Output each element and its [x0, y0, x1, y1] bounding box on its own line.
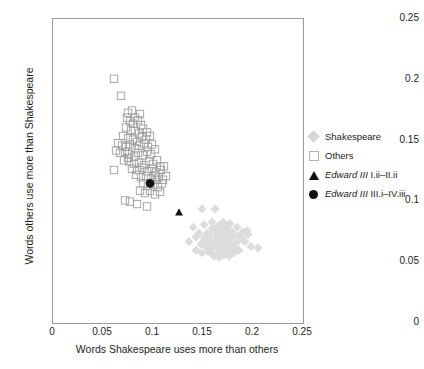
square-marker-icon [306, 148, 322, 164]
diamond-marker-icon [306, 129, 322, 145]
legend-title-italic-a: Edward III [325, 169, 368, 180]
legend-item-edward3-b[interactable]: Edward III III.i–IV.iii [306, 185, 424, 202]
xtick-label-0.2: 0.2 [245, 327, 259, 337]
legend-item-shakespeare[interactable]: Shakespeare [306, 128, 424, 145]
xtick-label-0.05: 0.05 [92, 327, 111, 337]
legend-label-shakespeare: Shakespeare [325, 131, 381, 142]
ytick-label-0.05: 0.05 [380, 256, 424, 266]
scatter-plot-figure: 0 0.05 0.1 0.15 0.2 0.25 0 0.05 0.1 0.15… [0, 0, 424, 369]
xtick-label-0.15: 0.15 [192, 327, 211, 337]
xtick-label-0.1: 0.1 [145, 327, 159, 337]
legend-scenes-a: I.ii–II.ii [368, 169, 398, 180]
ytick-label-0.25: 0.25 [380, 13, 424, 23]
xtick-label-0: 0 [49, 327, 55, 337]
y-axis-title: Words others use more than Shakespeare [23, 16, 35, 316]
ytick-label-0: 0 [380, 317, 424, 327]
xtick-label-0.25: 0.25 [292, 327, 311, 337]
x-axis-title: Words Shakespeare uses more than others [52, 343, 302, 355]
legend-item-edward3-a[interactable]: Edward III I.ii–II.ii [306, 166, 424, 183]
triangle-marker-icon [306, 167, 322, 183]
chart-legend: Shakespeare Others Edward III I.ii–II.ii… [306, 128, 424, 204]
legend-item-others[interactable]: Others [306, 147, 424, 164]
legend-scenes-b: III.i–IV.iii [368, 188, 406, 199]
plot-area-frame [52, 18, 304, 324]
ytick-label-0.2: 0.2 [380, 74, 424, 84]
circle-marker-icon [306, 186, 322, 202]
legend-label-others: Others [325, 150, 354, 161]
legend-label-edward3-b: Edward III III.i–IV.iii [325, 188, 405, 199]
legend-title-italic-b: Edward III [325, 188, 368, 199]
legend-label-edward3-a: Edward III I.ii–II.ii [325, 169, 397, 180]
